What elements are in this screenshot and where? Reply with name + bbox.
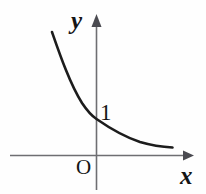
exponential-curve <box>52 32 173 148</box>
origin-label: O <box>76 157 91 178</box>
graph-canvas <box>0 0 206 194</box>
y-intercept-label: 1 <box>100 101 112 124</box>
x-axis-arrowhead <box>183 151 194 161</box>
exponential-decay-figure: y x 1 O <box>0 0 206 194</box>
y-axis-label: y <box>71 8 82 33</box>
x-axis-label: x <box>180 163 193 188</box>
y-axis-arrowhead <box>92 14 102 27</box>
